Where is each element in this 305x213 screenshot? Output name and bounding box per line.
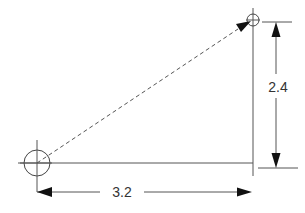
- horizontal-dimension-label: 3.2: [112, 184, 132, 200]
- arrowhead-left-icon: [37, 187, 52, 197]
- arrowhead-right-icon: [237, 188, 252, 197]
- arrowhead-up-icon: [272, 22, 281, 37]
- displacement-vector-arrow: [37, 21, 251, 163]
- arrowhead-down-icon: [272, 153, 281, 168]
- vertical-dimension: 2.4: [268, 22, 288, 168]
- horizontal-dimension: 3.2: [37, 184, 252, 200]
- displacement-diagram: 3.2 2.4: [0, 0, 305, 213]
- start-point-marker: [18, 140, 52, 192]
- vertical-dimension-label: 2.4: [268, 79, 288, 95]
